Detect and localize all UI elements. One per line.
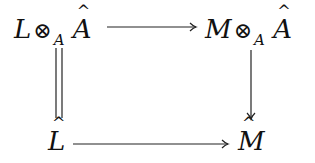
arrow-bottom xyxy=(73,140,228,148)
arrow-right xyxy=(247,50,255,119)
arrows-layer xyxy=(0,0,315,163)
equality-left xyxy=(56,48,62,118)
arrow-top xyxy=(107,23,196,31)
